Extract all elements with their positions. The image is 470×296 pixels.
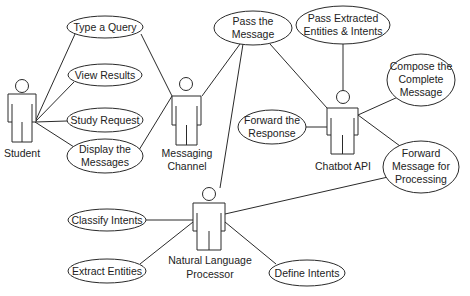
use-case-diagram: Type a Query View Results Study Request …: [0, 0, 470, 296]
use-case-label: Define Intents: [275, 267, 340, 279]
actor-label: Processor: [186, 268, 234, 280]
actor-icon: [327, 91, 358, 155]
use-case-label: Classify Intents: [71, 214, 142, 226]
use-case-label: Messages: [81, 156, 129, 168]
assoc-student-study-request: [35, 121, 67, 122]
actor-student[interactable]: Student: [4, 80, 40, 160]
use-case-forward-response[interactable]: Forward the Response: [238, 110, 306, 144]
use-case-label: Type a Query: [73, 21, 137, 33]
assoc-channel-pass-message: [202, 44, 240, 96]
use-case-label: Response: [248, 127, 295, 139]
use-case-label: Study Request: [71, 114, 140, 126]
use-case-display-messages[interactable]: Display the Messages: [67, 139, 143, 173]
assoc-chatbot-forward-processing: [358, 115, 400, 146]
use-case-label: Processing: [395, 173, 447, 185]
actor-label: Student: [4, 147, 40, 159]
use-case-label: View Results: [75, 69, 136, 81]
use-case-pass-extracted[interactable]: Pass Extracted Entities & Intents: [296, 6, 390, 44]
use-case-label: Message for: [392, 160, 450, 172]
actor-label: Chatbot API: [315, 160, 371, 172]
assoc-chatbot-pass-message: [270, 44, 327, 108]
actor-label: Messaging: [162, 147, 213, 159]
assoc-chatbot-compose: [358, 97, 398, 115]
use-case-compose-message[interactable]: Compose the Complete Message: [387, 54, 455, 106]
use-case-label: Extract Entities: [72, 265, 142, 277]
use-case-label: Forward: [402, 147, 441, 159]
assoc-student-view-results: [35, 82, 74, 122]
use-case-label: Entities & Intents: [304, 25, 383, 37]
use-case-define-intents[interactable]: Define Intents: [269, 260, 345, 286]
use-case-label: Message: [232, 28, 275, 40]
actor-icon: [8, 80, 36, 143]
actor-icon: [193, 188, 225, 251]
actor-icon: [172, 78, 201, 146]
use-case-forward-processing[interactable]: Forward Message for Processing: [383, 141, 459, 193]
use-case-label: Display the: [79, 143, 131, 155]
use-case-label: Complete: [399, 73, 444, 85]
assoc-nlp-forward-processing: [225, 177, 388, 214]
assoc-channel-type-query: [141, 34, 172, 96]
use-case-label: Compose the: [390, 60, 453, 72]
actor-label: Natural Language: [168, 254, 252, 266]
use-case-pass-message[interactable]: Pass the Message: [214, 11, 292, 45]
use-case-label: Pass Extracted: [308, 12, 379, 24]
use-case-classify-intents[interactable]: Classify Intents: [68, 209, 146, 231]
use-case-type-query[interactable]: Type a Query: [67, 16, 143, 38]
diagram-svg: Type a Query View Results Study Request …: [0, 0, 470, 296]
assoc-channel-display-messages: [139, 96, 172, 150]
use-case-study-request[interactable]: Study Request: [67, 108, 143, 132]
assoc-student-display-messages: [35, 122, 74, 147]
use-case-view-results[interactable]: View Results: [68, 64, 142, 86]
assoc-nlp-pass-message: [220, 44, 243, 188]
use-case-label: Message: [400, 86, 443, 98]
use-case-label: Forward the: [244, 114, 300, 126]
use-case-label: Pass the: [233, 15, 274, 27]
use-case-extract-entities[interactable]: Extract Entities: [68, 259, 146, 283]
actor-label: Channel: [167, 160, 206, 172]
actor-chatbot-api[interactable]: Chatbot API: [315, 91, 371, 173]
